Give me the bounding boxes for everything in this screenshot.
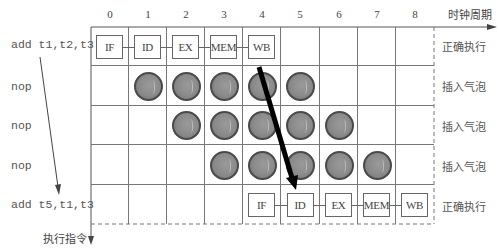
forwarding-arrowhead-icon (286, 175, 298, 190)
forwarding-arrow (0, 0, 499, 248)
forwarding-arrow-line (259, 67, 292, 178)
execution-axis-title: 执行指令 (43, 230, 87, 246)
